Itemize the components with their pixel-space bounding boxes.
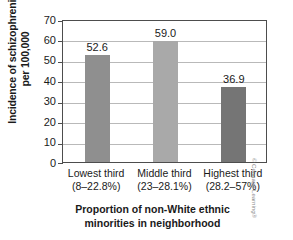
y-axis-tick-label: 70 xyxy=(30,15,56,26)
y-axis-tick-mark xyxy=(58,82,63,83)
y-axis-tick-mark xyxy=(58,144,63,145)
y-axis-tick-mark xyxy=(58,62,63,63)
y-axis-tick-mark xyxy=(58,163,63,164)
x-axis-category-name: Lowest third xyxy=(68,167,125,179)
y-axis-tick-label: 20 xyxy=(30,117,56,128)
y-axis-tick-mark xyxy=(58,41,63,42)
plot-area: 52.659.036.9 xyxy=(62,20,267,163)
x-axis-title-line-1: Proportion of non-White ethnic xyxy=(75,203,230,215)
x-axis-title: Proportion of non-White ethnic minoritie… xyxy=(40,203,265,230)
y-axis-tick-label: 50 xyxy=(30,55,56,66)
y-axis-tick-labels: 010203040506070 xyxy=(30,20,56,163)
bar-middle-third[interactable] xyxy=(153,41,178,162)
bar-highest-third[interactable] xyxy=(221,87,246,162)
x-axis-title-line-2: minorities in neighborhood xyxy=(40,217,265,231)
x-axis-category-range: (8–22.8%) xyxy=(62,180,130,193)
y-axis-tick-mark xyxy=(58,123,63,124)
bar-chart-figure: Incidence of schizophrenia per 100,000 0… xyxy=(0,0,293,240)
y-axis-tick-mark xyxy=(58,103,63,104)
bar-lowest-third[interactable] xyxy=(85,55,110,162)
y-axis-tick-label: 0 xyxy=(30,158,56,169)
y-axis-tick-label: 60 xyxy=(30,35,56,46)
copyright-credit: © Cengage Learning® xyxy=(249,158,259,238)
y-axis-tick-label: 40 xyxy=(30,76,56,87)
bar-value-label: 52.6 xyxy=(72,42,122,53)
y-axis-tick-mark xyxy=(58,21,63,22)
y-axis-tick-label: 30 xyxy=(30,96,56,107)
y-axis-tick-label: 10 xyxy=(30,137,56,148)
y-axis-title-line-1: Incidence of schizophrenia xyxy=(6,0,18,124)
x-axis-category-range: (23–28.1%) xyxy=(130,180,198,193)
x-axis-category-name: Middle third xyxy=(137,167,191,179)
bar-value-label: 36.9 xyxy=(209,74,259,85)
x-axis-tick-label: Middle third(23–28.1%) xyxy=(130,167,198,193)
bar-value-label: 59.0 xyxy=(141,28,191,39)
x-axis-tick-label: Lowest third(8–22.8%) xyxy=(62,167,130,193)
x-axis-tick-labels: Lowest third(8–22.8%)Middle third(23–28.… xyxy=(62,167,267,197)
